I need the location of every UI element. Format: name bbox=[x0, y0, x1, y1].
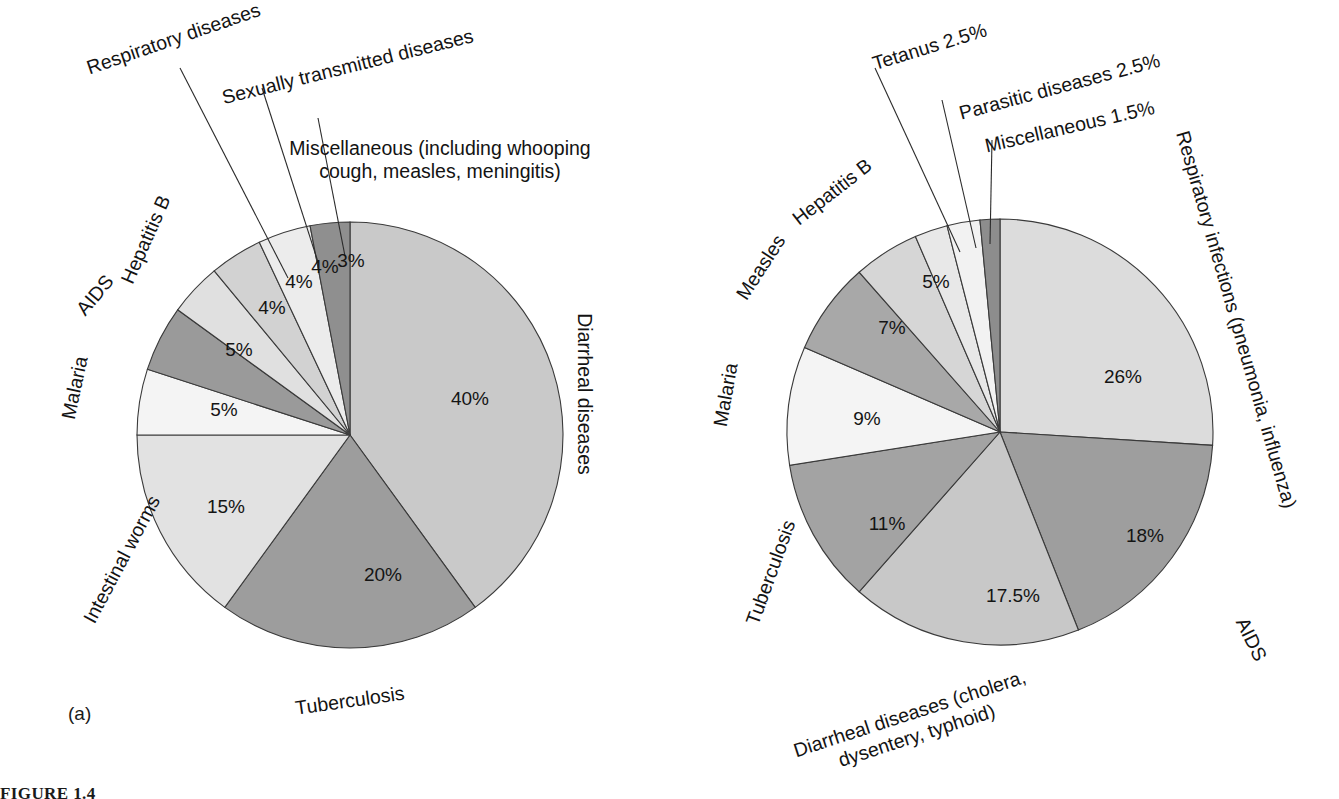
pie-chart-a-canvas: 40%20%15%5%5%4%4%4%3%Diarrheal diseasesT… bbox=[0, 0, 669, 799]
slice-category-label: Intestinal worms bbox=[79, 492, 165, 627]
slice-percent-label: 5% bbox=[225, 339, 253, 360]
slice-percent-label: 4% bbox=[258, 297, 286, 318]
slice-category-label-line: Malaria bbox=[709, 361, 742, 428]
panel-a-tag: (a) bbox=[68, 703, 91, 725]
slice-category-label: Diarrheal diseases (cholera,dysentery, t… bbox=[791, 665, 1036, 783]
pie-chart-panel-a: 40%20%15%5%5%4%4%4%3%Diarrheal diseasesT… bbox=[0, 0, 669, 799]
slice-category-label-line: Sexually transmitted diseases bbox=[220, 24, 476, 108]
slice-percent-label: 5% bbox=[922, 271, 950, 292]
slice-category-label: Respiratory diseases bbox=[84, 0, 264, 78]
slice-percent-label: 3% bbox=[337, 250, 365, 271]
slice-percent-label: 15% bbox=[207, 496, 245, 517]
slice-category-label-line: Intestinal worms bbox=[79, 492, 165, 627]
slice-percent-label: 9% bbox=[853, 408, 881, 429]
slice-percent-label: 17.5% bbox=[986, 585, 1040, 606]
slice-category-label-line: Diarrheal diseases bbox=[574, 313, 596, 475]
slice-category-label-line: Tuberculosis bbox=[294, 682, 406, 719]
slice-category-label-line: Measles bbox=[731, 230, 789, 303]
leader-line bbox=[875, 68, 960, 252]
slice-category-label-line: Respiratory diseases bbox=[84, 0, 264, 78]
slice-category-label-line: Hepatitis B bbox=[116, 192, 174, 287]
slice-category-label-line: AIDS bbox=[72, 270, 118, 319]
slice-category-label-line: cough, measles, meningitis) bbox=[319, 160, 561, 182]
slice-percent-label: 11% bbox=[869, 513, 906, 534]
slice-category-label-line: Malaria bbox=[57, 354, 92, 421]
slice-category-label: AIDS bbox=[1232, 614, 1272, 665]
slice-category-label: Diarrheal diseases bbox=[574, 313, 596, 475]
slice-category-label: Malaria bbox=[57, 354, 92, 421]
slice-percent-label: 4% bbox=[311, 256, 339, 277]
slice-percent-label: 5% bbox=[210, 399, 238, 420]
slice-category-label: AIDS bbox=[72, 270, 118, 319]
slice-category-label: Malaria bbox=[709, 361, 742, 428]
pie-chart-b-canvas: 26%18%17.5%11%9%7%5%Respiratory infectio… bbox=[670, 0, 1339, 799]
slice-category-label: Tetanus 2.5% bbox=[870, 18, 989, 74]
pie-chart-panel-b: 26%18%17.5%11%9%7%5%Respiratory infectio… bbox=[670, 0, 1339, 799]
slice-percent-label: 7% bbox=[878, 317, 906, 338]
slice-percent-label: 18% bbox=[1126, 525, 1164, 546]
slice-category-label-line: AIDS bbox=[1232, 614, 1272, 665]
slice-category-label: Hepatitis B bbox=[116, 192, 174, 287]
slice-percent-label: 4% bbox=[285, 271, 313, 292]
slice-percent-label: 40% bbox=[451, 388, 489, 409]
slice-category-label: Hepatitis B bbox=[788, 154, 876, 229]
figure-caption: FIGURE 1.4 bbox=[0, 784, 96, 799]
slice-percent-label: 20% bbox=[364, 564, 402, 585]
slice-category-label: Tuberculosis bbox=[294, 682, 406, 719]
slice-category-label-line: Miscellaneous (including whooping bbox=[289, 137, 590, 159]
slice-category-label: Sexually transmitted diseases bbox=[220, 24, 476, 108]
slice-category-label: Measles bbox=[731, 230, 789, 303]
slice-category-label-line: Tuberculosis bbox=[741, 517, 799, 628]
slice-category-label-line: Tetanus 2.5% bbox=[870, 18, 989, 74]
slice-category-label: Tuberculosis bbox=[741, 517, 799, 628]
slice-percent-label: 26% bbox=[1104, 366, 1142, 387]
pie-slice bbox=[1000, 219, 1213, 445]
slice-category-label-line: Hepatitis B bbox=[788, 154, 876, 229]
figure-container: 40%20%15%5%5%4%4%4%3%Diarrheal diseasesT… bbox=[0, 0, 1339, 799]
slice-category-label: Miscellaneous (including whoopingcough, … bbox=[289, 137, 590, 182]
